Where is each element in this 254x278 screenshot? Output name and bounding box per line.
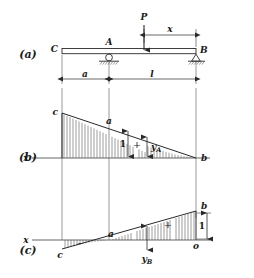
- support-pin-b: [188, 54, 205, 64]
- point-label-a: A: [105, 37, 113, 47]
- dim-x-label: x: [166, 24, 173, 34]
- panel-label-b: (b): [19, 151, 37, 164]
- load-label-p: P: [140, 12, 148, 22]
- point-label-a-b: a: [106, 116, 112, 126]
- point-label-c: C: [51, 44, 59, 54]
- panel-label-c: (c): [19, 244, 36, 257]
- point-label-c-b: c: [53, 107, 59, 117]
- point-label-b-b: b: [201, 153, 207, 163]
- hatch-area-positive-c: [113, 212, 194, 240]
- hatch-area-negative-c: [65, 240, 104, 248]
- point-label-c-c: c: [57, 250, 63, 260]
- panel-a: P x C A B a l (a): [19, 12, 208, 84]
- yb-label: yB: [141, 254, 153, 266]
- panel-label-a: (a): [19, 48, 37, 61]
- point-label-b-c: b: [201, 201, 207, 211]
- pin-triangle: [192, 54, 201, 61]
- point-label-o-c: o: [193, 241, 199, 251]
- ya-label-sub: A: [155, 146, 161, 154]
- dim-a-label: a: [82, 69, 88, 79]
- point-label-b: B: [199, 45, 208, 55]
- pin-hatch: [189, 61, 205, 64]
- sign-positive-c: +: [164, 219, 172, 230]
- unit-label-c: 1: [199, 221, 205, 231]
- panel-b: x: [19, 107, 210, 164]
- sign-negative-c: –: [78, 237, 83, 248]
- roller-circle: [106, 54, 113, 61]
- figure-container: P x C A B a l (a): [0, 0, 254, 278]
- beam: [62, 49, 196, 54]
- influence-line-figure: P x C A B a l (a): [0, 0, 254, 278]
- hatch-area-b: [64, 114, 193, 158]
- point-label-a-c: a: [108, 229, 114, 239]
- panel-c: x: [19, 201, 211, 266]
- sign-positive-b: +: [133, 139, 141, 150]
- ya-label: yA: [150, 142, 161, 154]
- unit-label-b: 1: [120, 139, 126, 149]
- beam-body: [62, 49, 196, 54]
- yb-label-sub: B: [146, 258, 153, 266]
- dim-l-label: l: [150, 69, 154, 79]
